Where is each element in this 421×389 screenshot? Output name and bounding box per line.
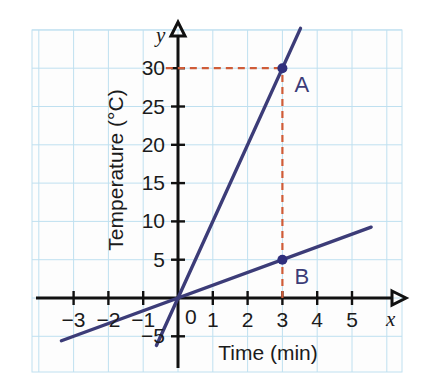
- data-point-A: [277, 63, 287, 73]
- x-tick-label: 3: [277, 308, 289, 331]
- y-axis-title: Temperature (°C): [104, 89, 127, 250]
- x-tick-label: 2: [242, 308, 254, 331]
- x-tick-label: 4: [311, 308, 323, 331]
- x-tick-label: −3: [62, 308, 86, 331]
- y-tick-label: 5: [153, 248, 165, 271]
- y-tick-label: 30: [142, 56, 165, 79]
- x-axis-variable-label: x: [385, 307, 396, 331]
- point-label-B: B: [294, 264, 309, 289]
- x-tick-label: 5: [346, 308, 358, 331]
- y-tick-label: 20: [142, 133, 165, 156]
- x-tick-label: −2: [96, 308, 120, 331]
- graph-image: AB −3−2−112345−551015202530 0 x y Time (…: [0, 0, 421, 389]
- data-point-B: [277, 255, 287, 265]
- origin-label: 0: [185, 305, 197, 328]
- point-label-A: A: [294, 72, 309, 97]
- x-tick-label: 1: [207, 308, 219, 331]
- coordinate-plane-chart: AB −3−2−112345−551015202530 0 x y Time (…: [0, 0, 421, 389]
- y-tick-label: 10: [142, 209, 165, 232]
- y-tick-label: 25: [142, 95, 165, 118]
- y-tick-label: −5: [141, 324, 165, 347]
- y-axis-variable-label: y: [154, 23, 166, 47]
- x-axis-title: Time (min): [218, 341, 318, 364]
- y-tick-label: 15: [142, 171, 165, 194]
